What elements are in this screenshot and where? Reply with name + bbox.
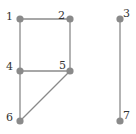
node-6 — [16, 117, 23, 124]
node-label-7: 7 — [123, 109, 130, 122]
graph-diagram: 1234567 — [0, 0, 136, 134]
node-1 — [16, 15, 23, 22]
node-2 — [66, 15, 73, 22]
node-label-3: 3 — [123, 7, 130, 20]
labels-group: 1234567 — [6, 7, 130, 124]
node-label-6: 6 — [6, 111, 13, 124]
node-label-4: 4 — [6, 60, 13, 73]
node-label-1: 1 — [6, 10, 13, 23]
node-4 — [16, 67, 23, 74]
node-5 — [66, 67, 73, 74]
node-label-2: 2 — [58, 9, 65, 22]
edge-5-6 — [20, 71, 70, 121]
node-label-5: 5 — [59, 59, 66, 72]
